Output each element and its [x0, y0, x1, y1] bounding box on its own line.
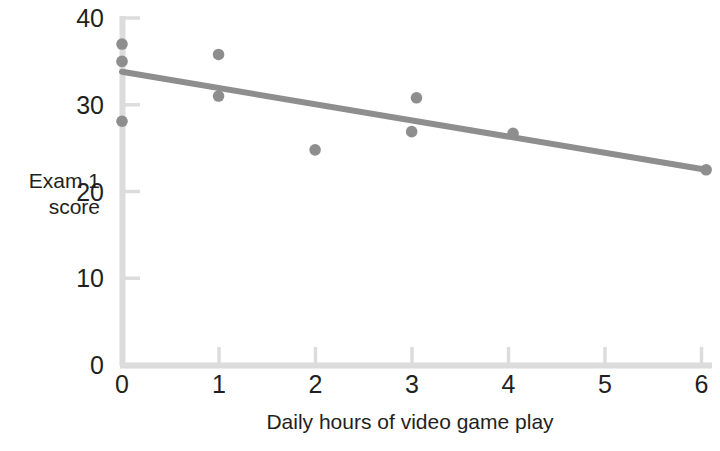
- data-point: [406, 126, 418, 138]
- x-tick-label-4: 4: [502, 372, 516, 397]
- x-tick-label-5: 5: [598, 372, 612, 397]
- y-tick-label-30: 30: [58, 92, 104, 117]
- data-point: [116, 56, 128, 68]
- y-tick-label-0: 0: [58, 353, 104, 378]
- x-tick-label-6: 6: [695, 372, 709, 397]
- data-point: [411, 92, 423, 104]
- y-axis-title: Exam 1 score: [0, 168, 100, 219]
- plot-canvas: [0, 0, 720, 451]
- y-tick-label-40: 40: [58, 6, 104, 31]
- scatter-plot-figure: 40 30 20 10 0 0 1 2 3 4 5 6 Exam 1 score…: [0, 0, 720, 451]
- x-tick-label-2: 2: [309, 372, 323, 397]
- x-tick-label-0: 0: [115, 372, 129, 397]
- x-tick-label-3: 3: [405, 372, 419, 397]
- data-point: [700, 164, 712, 176]
- data-point: [116, 115, 128, 127]
- data-point: [309, 144, 321, 156]
- x-axis-ticks: [123, 347, 702, 365]
- data-point: [507, 128, 519, 140]
- data-point: [213, 49, 225, 61]
- x-axis-title: Daily hours of video game play: [170, 411, 650, 432]
- regression-trend-line: [122, 72, 706, 170]
- y-axis-title-line-2: score: [0, 194, 100, 220]
- data-point: [116, 38, 128, 50]
- y-tick-label-10: 10: [58, 266, 104, 291]
- y-axis-title-line-1: Exam 1: [0, 168, 100, 194]
- x-tick-label-1: 1: [212, 372, 226, 397]
- data-point: [213, 90, 225, 102]
